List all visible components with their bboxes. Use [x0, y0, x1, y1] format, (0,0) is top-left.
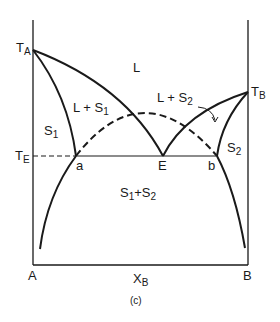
solvus-s2 [217, 156, 245, 248]
label-a-end: A [28, 268, 37, 283]
point-b: b [208, 158, 215, 173]
caption: (c) [130, 295, 142, 306]
x-axis-label: XB [133, 271, 149, 288]
label-te: TE [15, 148, 30, 165]
region-liquid: L [133, 60, 140, 75]
label-tb: TB [251, 84, 266, 101]
phase-diagram: TA TB TE a E b L L + S1 L + S2 S1 S2 S1+… [0, 0, 280, 322]
point-a: a [76, 158, 84, 173]
region-s1-s2: S1+S2 [120, 185, 157, 202]
region-l-s2: L + S2 [157, 90, 193, 107]
point-e: E [158, 158, 167, 173]
region-s1: S1 [44, 123, 59, 140]
region-l-s1: L + S1 [73, 100, 109, 117]
label-ta: TA [16, 40, 31, 57]
metastable-dome [76, 113, 217, 156]
solvus-s1 [40, 156, 76, 249]
label-b-end: B [243, 268, 252, 283]
region-s2: S2 [227, 140, 242, 157]
